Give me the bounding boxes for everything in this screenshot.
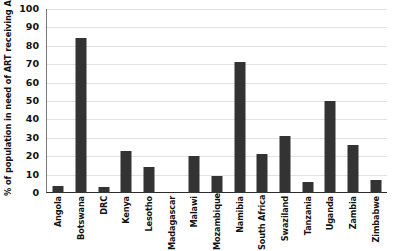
x-axis-label-slot: Kenya xyxy=(115,196,138,251)
bar-series xyxy=(47,9,387,193)
bar-slot xyxy=(319,9,342,193)
bar xyxy=(325,101,336,193)
x-axis-tick-label: DRC xyxy=(99,196,109,250)
x-axis-tick-label: Malawi xyxy=(189,196,199,250)
x-axis-tick-label: Swaziland xyxy=(280,196,290,250)
bar-slot xyxy=(206,9,229,193)
x-axis-label-slot: Zambia xyxy=(342,196,365,251)
x-axis-tick-label: Kenya xyxy=(121,196,131,250)
x-axis-label-slot: Mozambique xyxy=(206,196,229,251)
x-axis-label-slot: Swaziland xyxy=(274,196,297,251)
bar xyxy=(370,180,381,193)
x-axis-label-slot: Uganda xyxy=(319,196,342,251)
y-axis-tick-labels: 1009080706050403020100 xyxy=(0,0,44,251)
bar xyxy=(279,136,290,193)
x-axis-label-slot: Lesotho xyxy=(138,196,161,251)
x-axis-tick-label: South Africa xyxy=(257,196,267,250)
y-axis-tick-label: 50 xyxy=(0,96,39,106)
bar-slot xyxy=(138,9,161,193)
x-axis-tick-label: Namibia xyxy=(235,196,245,250)
x-axis-tick-label: Uganda xyxy=(325,196,335,250)
x-axis-tick-label: Tanzania xyxy=(303,196,313,250)
bar-slot xyxy=(342,9,365,193)
x-axis-label-slot: DRC xyxy=(92,196,115,251)
bar xyxy=(53,186,64,193)
bar xyxy=(347,145,358,193)
y-axis-tick-label: 10 xyxy=(0,170,39,180)
y-axis-tick-label: 90 xyxy=(0,22,39,32)
bar-slot xyxy=(251,9,274,193)
bar-slot xyxy=(115,9,138,193)
y-axis-tick-label: 40 xyxy=(0,114,39,124)
x-axis-tick-label: Mozambique xyxy=(212,196,222,250)
y-axis-tick-label: 70 xyxy=(0,59,39,69)
x-axis-label-slot: Malawi xyxy=(183,196,206,251)
bar xyxy=(98,187,109,193)
bar xyxy=(257,154,268,193)
x-axis-tick-label: Madagascar xyxy=(167,196,177,250)
bar-slot xyxy=(160,9,183,193)
bar xyxy=(75,38,86,193)
bar-slot xyxy=(274,9,297,193)
y-axis-tick-label: 100 xyxy=(0,4,39,14)
x-axis-tick-label: Zimbabwe xyxy=(371,196,381,250)
y-axis-tick-label: 30 xyxy=(0,133,39,143)
x-axis-label-slot: Angola xyxy=(47,196,70,251)
bar-slot xyxy=(183,9,206,193)
x-axis-tick-label: Zambia xyxy=(348,196,358,250)
x-axis-label-slot: Madagascar xyxy=(160,196,183,251)
y-axis-tick-label: 80 xyxy=(0,41,39,51)
bar xyxy=(121,151,132,193)
x-axis-label-slot: Namibia xyxy=(228,196,251,251)
bar xyxy=(143,167,154,193)
bar-slot xyxy=(70,9,93,193)
x-axis-label-slot: Zimbabwe xyxy=(364,196,387,251)
bar-chart: % of population in need of ART receiving… xyxy=(0,0,395,251)
bar xyxy=(302,182,313,193)
x-axis-tick-label: Angola xyxy=(53,196,63,250)
x-axis-tick-label: Botswana xyxy=(76,196,86,250)
x-axis-label-slot: Tanzania xyxy=(296,196,319,251)
bar-slot xyxy=(296,9,319,193)
bar xyxy=(234,62,245,193)
y-axis-tick-label: 20 xyxy=(0,151,39,161)
y-axis-tick-label: 60 xyxy=(0,78,39,88)
x-axis-tick-labels: AngolaBotswanaDRCKenyaLesothoMadagascarM… xyxy=(47,196,387,251)
bar-slot xyxy=(92,9,115,193)
y-axis-tick-label: 0 xyxy=(0,188,39,198)
x-axis-label-slot: South Africa xyxy=(251,196,274,251)
x-axis-tick-label: Lesotho xyxy=(144,196,154,250)
x-axis-label-slot: Botswana xyxy=(70,196,93,251)
bar-slot xyxy=(47,9,70,193)
bar-slot xyxy=(364,9,387,193)
bar-slot xyxy=(228,9,251,193)
bar xyxy=(211,176,222,193)
bar xyxy=(189,156,200,193)
